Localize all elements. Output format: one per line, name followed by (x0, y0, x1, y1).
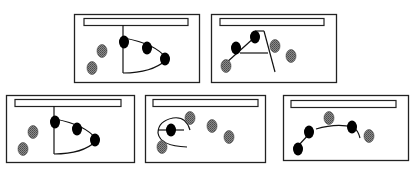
panel-4 (146, 96, 266, 163)
black-node (304, 126, 314, 139)
gray-node (286, 50, 296, 63)
gray-node (87, 62, 97, 75)
gray-node (270, 40, 280, 53)
gray-node (324, 112, 334, 125)
black-node (72, 123, 82, 136)
black-node (347, 121, 357, 134)
gray-node (28, 126, 38, 139)
diagram-canvas (0, 0, 415, 169)
panel-5 (284, 96, 409, 161)
black-node (250, 31, 260, 44)
title-bar (15, 100, 121, 107)
gray-node (207, 120, 217, 133)
gray-node (18, 143, 28, 156)
gray-node (364, 130, 374, 143)
title-bar (291, 101, 396, 108)
gray-node (224, 131, 234, 144)
black-node (142, 42, 152, 55)
panel-3 (7, 96, 135, 163)
gray-node (97, 45, 107, 58)
black-node (293, 143, 303, 156)
title-bar (153, 100, 258, 107)
gray-node (185, 112, 195, 125)
black-node (90, 134, 100, 147)
black-node (231, 42, 241, 55)
panel-2 (212, 15, 337, 83)
black-node (160, 53, 170, 66)
black-node (166, 124, 176, 137)
title-bar (84, 19, 188, 26)
gray-node (157, 141, 167, 154)
panel-1 (75, 15, 200, 83)
black-node (119, 36, 129, 49)
gray-node (221, 60, 231, 73)
black-node (50, 116, 60, 129)
title-bar (220, 19, 324, 26)
